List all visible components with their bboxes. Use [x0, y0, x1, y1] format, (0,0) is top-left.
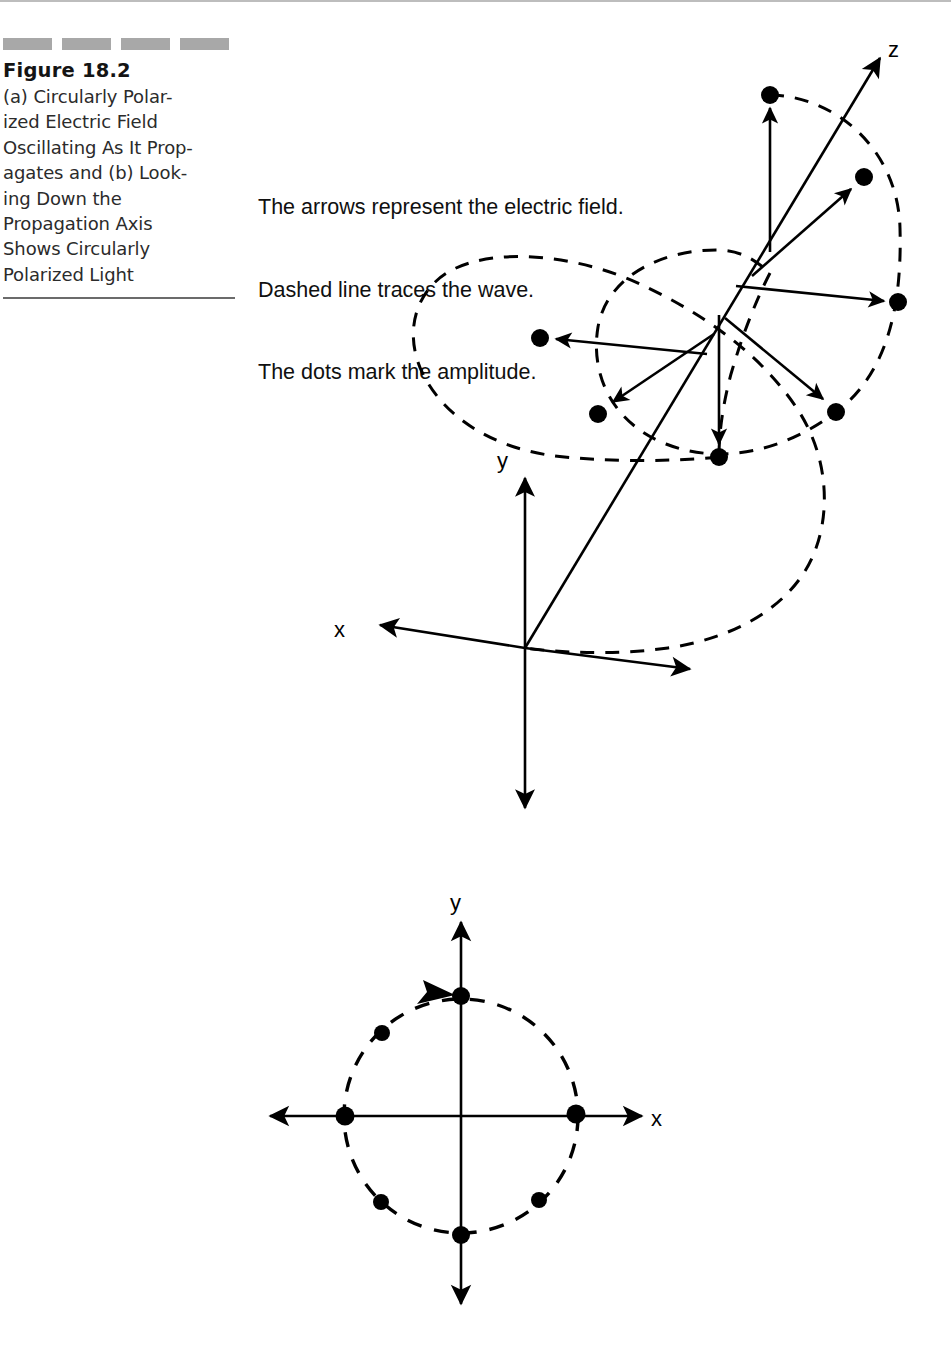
- figure-a-circularly-polarized-wave: z y x: [0, 0, 951, 860]
- y-axis-label: y: [497, 448, 508, 473]
- field-vector-lower-right: [725, 318, 823, 399]
- x-axis-label: x: [334, 617, 345, 642]
- amplitude-dot: [589, 405, 607, 423]
- z-axis-label: z: [888, 37, 899, 62]
- amplitude-dot: [889, 293, 907, 311]
- amplitude-dot: [531, 329, 549, 347]
- amplitude-dot: [710, 448, 728, 466]
- amplitude-dot: [374, 1025, 390, 1041]
- figure-b-looking-down-propagation-axis: y x: [0, 860, 951, 1364]
- amplitude-dot: [855, 168, 873, 186]
- x-axis-label: x: [651, 1106, 662, 1131]
- x-axis-front: [380, 625, 525, 648]
- amplitude-dot: [336, 1107, 355, 1126]
- amplitude-dot: [761, 86, 779, 104]
- amplitude-dot: [567, 1105, 586, 1124]
- field-vector-upper-right: [752, 189, 851, 276]
- field-vector-left: [556, 339, 707, 354]
- amplitude-dot: [452, 987, 470, 1005]
- amplitude-dot: [531, 1192, 547, 1208]
- electric-field-vectors: [556, 108, 884, 444]
- axis-group-3d: [380, 58, 880, 808]
- amplitude-dot: [827, 403, 845, 421]
- field-vector-lower-left: [613, 334, 714, 402]
- amplitude-dot: [373, 1194, 389, 1210]
- y-axis-label: y: [450, 890, 461, 915]
- amplitude-dot: [452, 1226, 470, 1244]
- axis-group-2d: [270, 922, 642, 1304]
